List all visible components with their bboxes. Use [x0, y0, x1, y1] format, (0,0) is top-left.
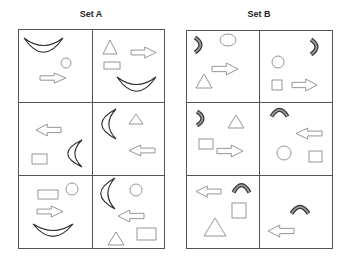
- rectangle-shape: [309, 151, 322, 162]
- set-b-cell-1: [195, 34, 238, 88]
- set-a-cell-2: [103, 40, 156, 91]
- thick-arc-shape: [234, 185, 250, 192]
- diagram-canvas: [0, 0, 338, 260]
- triangle-shape: [228, 115, 244, 128]
- arrow-left-shape: [196, 186, 221, 197]
- arrow-right-shape: [292, 79, 317, 91]
- thick-arc-shape: [311, 40, 316, 55]
- set-b-cell-2: [272, 40, 317, 92]
- arrow-left-shape: [268, 225, 294, 237]
- set-a-cell-1: [24, 38, 71, 83]
- thick-arc-shape: [197, 112, 202, 126]
- set-b-grid: [186, 30, 333, 249]
- triangle-shape: [204, 218, 226, 236]
- crescent-moon-shape: [117, 77, 156, 91]
- circle-shape: [130, 184, 142, 196]
- rectangle-shape: [272, 80, 282, 90]
- arrow-right-shape: [40, 73, 66, 83]
- circle-shape: [277, 146, 291, 160]
- crescent-moon-shape: [101, 178, 115, 209]
- circle-shape: [272, 56, 284, 68]
- crescent-moon-shape: [102, 109, 116, 139]
- set-a-cell-4: [102, 109, 155, 156]
- arrow-left-shape: [129, 145, 155, 156]
- arrow-right-shape: [212, 63, 238, 75]
- triangle-shape: [196, 74, 212, 88]
- set-b-cell-3: [197, 112, 244, 158]
- arrow-left-shape: [36, 124, 61, 136]
- triangle-shape: [108, 232, 124, 245]
- set-a-cell-3: [32, 124, 82, 167]
- triangle-shape: [103, 40, 117, 54]
- set-b-cell-4: [272, 110, 323, 162]
- thick-arc-shape: [292, 207, 309, 214]
- thick-arc-shape: [272, 110, 288, 117]
- arrow-left-shape: [296, 128, 322, 139]
- arrow-left-shape: [118, 210, 144, 222]
- arrow-right-shape: [37, 206, 63, 217]
- ellipse-shape: [220, 34, 236, 46]
- crescent-moon-shape: [68, 140, 82, 167]
- crescent-moon-shape: [33, 224, 73, 236]
- crescent-moon-shape: [24, 38, 63, 52]
- arrow-right-shape: [131, 47, 156, 58]
- set-a-grid: [18, 29, 165, 249]
- rectangle-shape: [199, 139, 213, 149]
- arrow-right-shape: [217, 145, 243, 157]
- set-a-cell-6: [101, 178, 156, 245]
- thick-arc-shape: [195, 38, 200, 53]
- triangle-shape: [129, 114, 143, 124]
- set-b-cell-5: [196, 185, 250, 236]
- circle-shape: [66, 183, 78, 195]
- rectangle-shape: [137, 228, 156, 240]
- set-a-cell-5: [33, 183, 78, 236]
- circle-shape: [61, 58, 71, 68]
- rectangle-shape: [232, 203, 246, 218]
- rectangle-shape: [38, 190, 58, 199]
- rectangle-shape: [104, 62, 120, 69]
- set-b-cell-6: [268, 207, 309, 237]
- rectangle-shape: [32, 154, 47, 164]
